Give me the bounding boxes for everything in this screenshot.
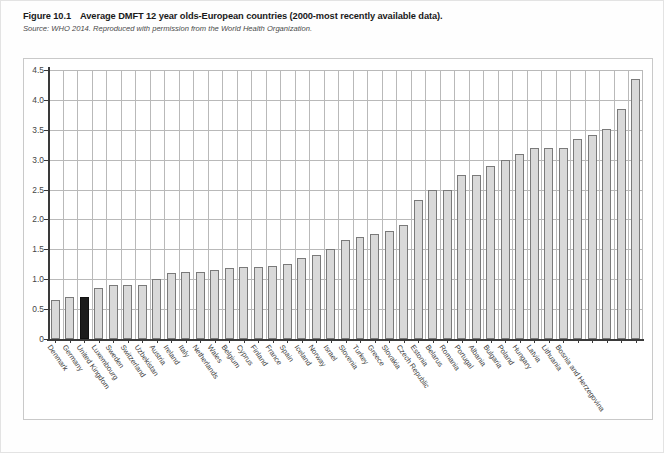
grid-line-vertical	[237, 70, 238, 339]
y-tick-mark	[44, 160, 48, 161]
x-tick-mark	[375, 339, 376, 343]
grid-line-vertical	[338, 70, 339, 339]
x-tick-mark	[229, 339, 230, 343]
y-tick-label: 2.0	[32, 214, 44, 224]
x-tick-mark	[360, 339, 361, 343]
grid-line-vertical	[556, 70, 557, 339]
x-tick-mark	[200, 339, 201, 343]
bar-bosnia-and-herzegovina	[559, 148, 568, 339]
x-tick-mark	[549, 339, 550, 343]
bar-turkey	[356, 237, 365, 339]
bar-germany	[65, 297, 74, 339]
bar-slovenia	[341, 240, 350, 339]
y-tick-label: 2.5	[32, 185, 44, 195]
bar-estonia	[414, 200, 423, 339]
y-tick-mark	[44, 339, 48, 340]
bar-poland	[501, 160, 510, 339]
x-tick-mark	[462, 339, 463, 343]
grid-line-vertical	[251, 70, 252, 339]
x-tick-mark	[389, 339, 390, 343]
y-tick-label: 1.5	[32, 244, 44, 254]
x-tick-mark	[113, 339, 114, 343]
y-tick-mark	[44, 130, 48, 131]
x-tick-mark	[99, 339, 100, 343]
x-tick-mark	[520, 339, 521, 343]
x-tick-mark	[476, 339, 477, 343]
x-tick-mark	[592, 339, 593, 343]
grid-line-vertical	[222, 70, 223, 339]
bar-israel	[326, 249, 335, 339]
bar-lithuania	[544, 148, 553, 339]
grid-line-vertical	[628, 70, 629, 339]
grid-line-vertical	[425, 70, 426, 339]
bar-italy	[181, 272, 190, 339]
x-axis-labels: DenmarkGermanyUnited KingdomLuxembourgSw…	[48, 343, 648, 453]
bar-spain	[283, 264, 292, 339]
bar-	[617, 109, 626, 339]
bar-sweden	[109, 285, 118, 339]
figure-number: Figure 10.1	[23, 11, 71, 21]
grid-line-vertical	[599, 70, 600, 339]
grid-line-vertical	[164, 70, 165, 339]
x-tick-mark	[505, 339, 506, 343]
bar-hungary	[515, 154, 524, 339]
y-tick-label: 4.5	[32, 65, 44, 75]
bar-	[602, 129, 611, 339]
bar-belgium	[225, 268, 234, 339]
x-tick-mark	[273, 339, 274, 343]
grid-line-vertical	[135, 70, 136, 339]
grid-line-vertical	[208, 70, 209, 339]
x-tick-mark	[302, 339, 303, 343]
y-tick-mark	[44, 219, 48, 220]
x-tick-mark	[287, 339, 288, 343]
bar-austria	[152, 279, 161, 339]
x-tick-mark	[171, 339, 172, 343]
grid-line-vertical	[295, 70, 296, 339]
bar-netherlands	[196, 272, 205, 339]
grid-line-vertical	[77, 70, 78, 339]
bar-united-kingdom	[80, 297, 89, 339]
plot-area	[48, 70, 643, 339]
grid-line-vertical	[193, 70, 194, 339]
bar-romania	[443, 190, 452, 339]
bar-portugal	[457, 175, 466, 339]
y-tick-mark	[44, 249, 48, 250]
grid-line-vertical	[512, 70, 513, 339]
x-tick-mark	[128, 339, 129, 343]
grid-line-vertical	[483, 70, 484, 339]
bar-cyprus	[239, 267, 248, 339]
grid-line-vertical	[353, 70, 354, 339]
figure-caption: Figure 10.1Average DMFT 12 year olds-Eur…	[23, 11, 653, 33]
bar-wales	[210, 270, 219, 339]
x-tick-mark	[244, 339, 245, 343]
y-axis-line	[48, 67, 50, 339]
y-tick-label: 0.5	[32, 304, 44, 314]
grid-line-vertical	[527, 70, 528, 339]
grid-line-vertical	[92, 70, 93, 339]
bar-ireland	[167, 273, 176, 339]
y-tick-mark	[44, 279, 48, 280]
grid-line-vertical	[411, 70, 412, 339]
caption-title-line: Figure 10.1Average DMFT 12 year olds-Eur…	[23, 11, 653, 21]
bar-uzbekistan	[138, 285, 147, 339]
bar-france	[268, 266, 277, 339]
grid-line-vertical	[280, 70, 281, 339]
x-tick-mark	[418, 339, 419, 343]
x-tick-mark	[563, 339, 564, 343]
x-tick-mark	[258, 339, 259, 343]
bar-	[588, 135, 597, 339]
y-tick-label: 4.0	[32, 95, 44, 105]
grid-line-horizontal	[48, 160, 643, 161]
bar-	[631, 79, 640, 339]
x-tick-mark	[186, 339, 187, 343]
x-tick-mark	[142, 339, 143, 343]
bar-latvia	[530, 148, 539, 339]
bar-norway	[312, 255, 321, 339]
bar-greece	[370, 234, 379, 339]
page-canvas: Figure 10.1Average DMFT 12 year olds-Eur…	[0, 0, 664, 453]
grid-line-vertical	[585, 70, 586, 339]
x-tick-mark	[331, 339, 332, 343]
x-tick-mark	[491, 339, 492, 343]
x-tick-mark	[55, 339, 56, 343]
y-tick-mark	[44, 100, 48, 101]
